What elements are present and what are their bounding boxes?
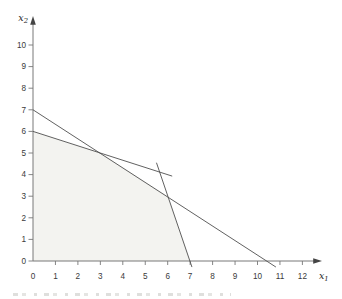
x-axis-arrow-icon — [313, 258, 322, 264]
y-axis-arrow-icon — [30, 16, 36, 25]
y-tick-label: 8 — [21, 84, 26, 93]
x-tick-label: 3 — [98, 272, 103, 281]
x-tick-label: 1 — [53, 272, 58, 281]
x-tick-label: 6 — [165, 272, 170, 281]
y-tick-label: 2 — [21, 214, 26, 223]
x-tick-label: 0 — [31, 272, 36, 281]
y-axis-label: x2 — [18, 12, 28, 25]
lp-feasible-region-chart: 0123456789101112012345678910 x2 x1 — [0, 0, 342, 299]
y-tick-label: 9 — [21, 62, 26, 71]
y-tick-label: 10 — [17, 41, 27, 50]
x-tick-label: 10 — [253, 272, 263, 281]
x-tick-label: 2 — [76, 272, 81, 281]
y-tick-label: 5 — [21, 149, 26, 158]
x-tick-label: 9 — [233, 272, 238, 281]
cut-off-caption-fragment — [13, 293, 231, 296]
y-tick-label: 4 — [21, 170, 26, 179]
y-tick-label: 7 — [21, 106, 26, 115]
x-tick-label: 12 — [298, 272, 308, 281]
y-tick-label: 3 — [21, 192, 26, 201]
y-tick-label: 1 — [21, 235, 26, 244]
x-tick-label: 7 — [188, 272, 193, 281]
y-tick-label: 0 — [21, 257, 26, 266]
y-tick-label: 6 — [21, 127, 26, 136]
x-tick-label: 4 — [121, 272, 126, 281]
x-axis-label: x1 — [319, 270, 329, 283]
x-tick-label: 8 — [210, 272, 215, 281]
figure: 0123456789101112012345678910 x2 x1 — [0, 0, 342, 299]
x-tick-label: 11 — [276, 272, 285, 281]
x-tick-label: 5 — [143, 272, 148, 281]
